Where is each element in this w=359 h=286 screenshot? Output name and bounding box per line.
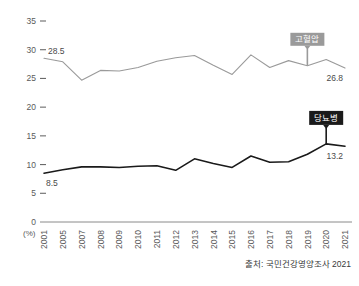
hypertension-callout: 고혈압	[290, 33, 324, 66]
x-tick-label: 2008	[96, 230, 106, 249]
diabetes-callout: 당뇨병	[309, 111, 343, 144]
x-tick-label: 2007	[77, 230, 87, 249]
diabetes-callout-text: 당뇨병	[314, 113, 338, 123]
y-tick-label: 20	[27, 102, 37, 112]
y-tick-label: 15	[27, 131, 37, 141]
x-tick-label: 2011	[152, 230, 162, 249]
hypertension-end-value: 26.8	[326, 73, 343, 83]
hypertension-callout-text: 고혈압	[295, 34, 319, 44]
x-tick-label: 2014	[209, 230, 219, 249]
y-axis-unit-label: (%)	[23, 229, 36, 238]
x-tick-label: 2019	[303, 230, 313, 249]
diabetes-start-value: 8.5	[46, 178, 58, 188]
y-tick-label: 35	[27, 16, 37, 26]
chart-container: 05101520253035 2001200520072008200920102…	[0, 0, 359, 286]
x-tick-label: 2012	[171, 230, 181, 249]
series-line-diabetes	[44, 144, 345, 173]
y-tick-label: 30	[27, 45, 37, 55]
x-tick-label: 2005	[58, 230, 68, 249]
x-tick-label: 2015	[227, 230, 237, 249]
callout-labels: 고혈압당뇨병	[290, 33, 343, 144]
source-note: 출처: 국민건강영양조사 2021	[245, 259, 351, 269]
line-chart: 05101520253035 2001200520072008200920102…	[0, 0, 359, 286]
series-line-hypertension	[44, 55, 345, 80]
diabetes-end-value: 13.2	[326, 151, 343, 161]
x-tick-label: 2016	[246, 230, 256, 249]
x-axis: 2001200520072008200920102011201220132014…	[39, 230, 350, 249]
x-tick-label: 2001	[39, 230, 49, 249]
x-tick-label: 2010	[133, 230, 143, 249]
x-tick-label: 2020	[321, 230, 331, 249]
y-tick-label: 5	[31, 188, 36, 198]
x-tick-label: 2009	[114, 230, 124, 249]
hypertension-start-value: 28.5	[48, 46, 65, 56]
x-tick-label: 2021	[340, 230, 350, 249]
y-tick-label: 0	[31, 217, 36, 227]
x-tick-label: 2017	[265, 230, 275, 249]
x-tick-label: 2018	[284, 230, 294, 249]
series-lines	[44, 55, 345, 173]
y-tick-label: 25	[27, 73, 37, 83]
y-tick-label: 10	[27, 160, 37, 170]
y-axis: 05101520253035	[27, 16, 46, 227]
x-tick-label: 2013	[190, 230, 200, 249]
